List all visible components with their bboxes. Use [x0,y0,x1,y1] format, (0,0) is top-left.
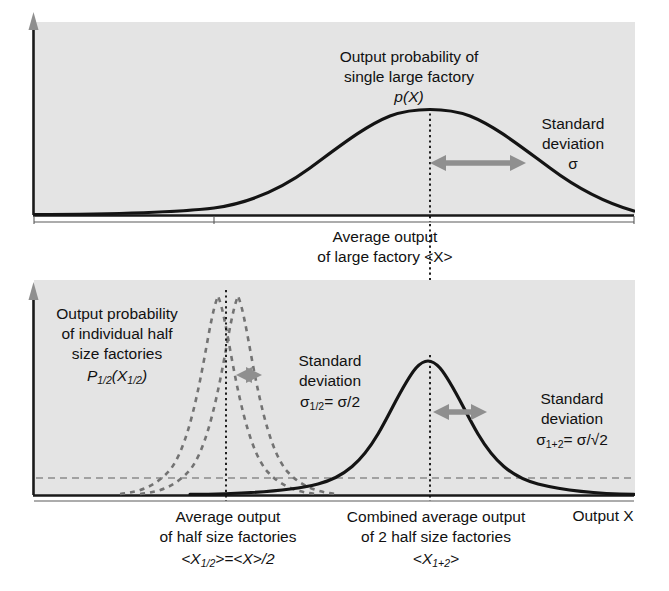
bottom-panel-sigma-combined-label: Standard deviation σ1+2= σ/√2 [536,390,608,450]
top-panel-y-axis-arrowhead [29,12,39,30]
top-panel-sigma-label-line1: Standard [542,115,605,132]
top-panel-sigma-label-line2: deviation [542,135,604,152]
sigma-half-value: = σ/2 [324,393,360,410]
bottom-panel-x-axis-label: Output X [572,507,634,524]
bottom-panel: Output probability of individual half si… [29,280,636,501]
formula-close: ) [140,367,147,384]
bottom-panel-half-distribution-label-line2: of individual half [61,325,173,342]
half-mean-rest: >=<X>/2 [215,550,275,567]
formula-p: P [87,367,98,384]
bottom-panel-sigma-combined-label-line1: Standard [541,390,604,407]
half-mean-sub: 1/2 [201,557,216,569]
top-panel-mean-label: Average output of large factory <X> [317,228,452,265]
formula-x-open: (X [112,367,128,384]
bottom-panel-combined-mean-label-line1: Combined average output [347,508,526,525]
bottom-panel-sigma-half-label-line1: Standard [299,352,362,369]
bottom-panel-combined-mean-label-formula: <X1+2> [413,550,459,569]
bottom-panel-half-mean-label-formula: <X1/2>=<X>/2 [181,550,275,569]
top-panel-mean-label-line2: of large factory <X> [317,248,452,265]
factory-output-probability-diagram: Output probability of single large facto… [0,0,669,591]
sigma-half-symbol: σ [300,393,310,410]
combined-mean-open: <X [413,550,433,567]
sigma-combined-sub: 1+2 [546,438,564,450]
bottom-panel-combined-mean-label-line2: of 2 half size factories [361,528,511,545]
bottom-panel-half-distribution-label-line1: Output probability [56,305,178,322]
bottom-panel-sigma-half-label: Standard deviation σ1/2= σ/2 [299,352,362,412]
sigma-combined-symbol: σ [536,431,546,448]
top-panel-sigma-label-symbol: σ [568,155,578,172]
bottom-panel-sigma-combined-label-line2: deviation [541,410,603,427]
bottom-panel-half-mean-label: Average output of half size factories <X… [160,508,297,569]
bottom-panel-half-distribution-label-line3: size factories [72,345,163,362]
top-panel-distribution-label-line2: single large factory [344,68,474,85]
top-panel-mean-label-line1: Average output [333,228,439,245]
bottom-panel-combined-mean-label: Combined average output of 2 half size f… [347,508,526,569]
formula-p-sub: 1/2 [97,374,112,386]
combined-mean-rest: > [450,550,459,567]
top-panel-distribution-label-formula: p(X) [393,88,423,105]
top-panel-distribution-label-line1: Output probability of [340,48,479,65]
sigma-combined-value: = σ/√2 [564,431,608,448]
bottom-panel-sigma-half-label-line2: deviation [299,372,361,389]
bottom-panel-half-mean-label-line2: of half size factories [160,528,297,545]
half-mean-open: <X [181,550,201,567]
top-panel: Output probability of single large facto… [29,12,636,224]
formula-x-sub: 1/2 [127,374,142,386]
combined-mean-sub: 1+2 [432,557,450,569]
bottom-panel-sigma-half-label-formula: σ1/2= σ/2 [300,393,360,412]
sigma-half-sub: 1/2 [310,400,325,412]
bottom-panel-half-mean-label-line1: Average output [176,508,282,525]
